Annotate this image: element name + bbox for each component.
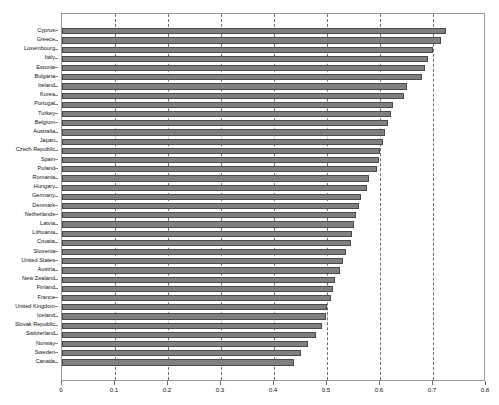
y-axis-tick bbox=[55, 288, 58, 289]
bar bbox=[62, 267, 340, 273]
category-label: Croatia bbox=[37, 237, 55, 246]
category-label: Slovak Republic bbox=[15, 320, 55, 329]
x-axis-tick-label: 0.8 bbox=[481, 386, 490, 393]
category-label: United Kingdom bbox=[15, 302, 55, 311]
bar-row bbox=[62, 146, 484, 155]
y-axis-tick bbox=[55, 49, 58, 50]
bar bbox=[62, 139, 383, 145]
bar bbox=[62, 194, 361, 200]
bar-row bbox=[62, 202, 484, 211]
bar-row bbox=[62, 91, 484, 100]
bar-row bbox=[62, 119, 484, 128]
category-label: Slovenia bbox=[34, 247, 55, 256]
bar-row bbox=[62, 257, 484, 266]
bar-row bbox=[62, 165, 484, 174]
bar bbox=[62, 212, 356, 218]
bar-row bbox=[62, 156, 484, 165]
y-axis-tick bbox=[55, 159, 58, 160]
y-axis-tick bbox=[55, 205, 58, 206]
y-axis-tick bbox=[55, 352, 58, 353]
bar-row bbox=[62, 211, 484, 220]
y-axis-tick bbox=[55, 168, 58, 169]
bar-series bbox=[62, 14, 484, 380]
x-axis-tick-label: 0.5 bbox=[322, 386, 331, 393]
bar bbox=[62, 74, 422, 80]
bar bbox=[62, 102, 393, 108]
bar bbox=[62, 166, 377, 172]
category-label: Australia bbox=[33, 127, 55, 136]
category-label: Turkey bbox=[38, 109, 55, 118]
category-label: Belgium bbox=[35, 118, 55, 127]
x-axis-tick bbox=[379, 381, 380, 385]
category-label: Lithuania bbox=[32, 228, 55, 237]
bar bbox=[62, 56, 428, 62]
y-axis-tick bbox=[55, 362, 58, 363]
x-axis-tick bbox=[167, 381, 168, 385]
bar-row bbox=[62, 100, 484, 109]
y-axis-tick bbox=[55, 113, 58, 114]
bar-chart: CyprusGreeceLuxembourgItalyEstoniaBulgar… bbox=[0, 0, 499, 405]
bar bbox=[62, 157, 379, 163]
category-label: Sweden bbox=[35, 348, 55, 357]
y-axis-tick bbox=[55, 104, 58, 105]
category-label: Netherlands bbox=[25, 210, 55, 219]
bar-row bbox=[62, 349, 484, 358]
bar bbox=[62, 129, 385, 135]
bar-row bbox=[62, 275, 484, 284]
x-axis-tick-label: 0 bbox=[59, 386, 62, 393]
x-axis-tick-label: 0.2 bbox=[163, 386, 172, 393]
x-axis-tick-label: 0.4 bbox=[269, 386, 278, 393]
y-axis-tick bbox=[55, 297, 58, 298]
category-label: Luxembourg bbox=[24, 44, 55, 53]
bar bbox=[62, 231, 352, 237]
y-axis-tick bbox=[55, 122, 58, 123]
bar bbox=[62, 175, 369, 181]
bar bbox=[62, 47, 433, 53]
bar-row bbox=[62, 321, 484, 330]
y-axis-tick bbox=[55, 334, 58, 335]
bar bbox=[62, 258, 343, 264]
y-axis-tick bbox=[55, 224, 58, 225]
category-label: Cyprus bbox=[37, 26, 55, 35]
category-label: Ireland bbox=[38, 81, 55, 90]
bar-row bbox=[62, 229, 484, 238]
y-axis-tick bbox=[55, 233, 58, 234]
bar-row bbox=[62, 36, 484, 45]
category-label: Hungary bbox=[34, 182, 55, 191]
category-axis-labels: CyprusGreeceLuxembourgItalyEstoniaBulgar… bbox=[0, 13, 58, 381]
y-axis-tick bbox=[55, 279, 58, 280]
x-axis-tick-label: 0.6 bbox=[375, 386, 384, 393]
bar bbox=[62, 313, 326, 319]
y-axis-tick bbox=[55, 260, 58, 261]
bar-row bbox=[62, 358, 484, 367]
bar-row bbox=[62, 312, 484, 321]
bar bbox=[62, 341, 308, 347]
x-axis-tick bbox=[326, 381, 327, 385]
y-axis-tick bbox=[55, 58, 58, 59]
bar-row bbox=[62, 110, 484, 119]
bar-row bbox=[62, 294, 484, 303]
bar bbox=[62, 277, 335, 283]
y-axis-tick bbox=[55, 76, 58, 77]
category-label: Bulgaria bbox=[34, 72, 55, 81]
category-label: France bbox=[38, 293, 55, 302]
y-axis-tick bbox=[55, 214, 58, 215]
bar bbox=[62, 323, 322, 329]
x-axis-tick bbox=[114, 381, 115, 385]
bar-row bbox=[62, 248, 484, 257]
x-axis-tick-label: 0.7 bbox=[428, 386, 437, 393]
y-axis-tick bbox=[55, 242, 58, 243]
category-label: Estonia bbox=[36, 63, 55, 72]
y-axis-tick bbox=[55, 86, 58, 87]
bar bbox=[62, 286, 333, 292]
y-axis-tick bbox=[55, 67, 58, 68]
bar-row bbox=[62, 192, 484, 201]
category-label: Czech Republic bbox=[16, 145, 55, 154]
category-label: Romania bbox=[33, 173, 55, 182]
category-label: Norway bbox=[36, 339, 55, 348]
category-label: Korea bbox=[40, 90, 55, 99]
bar bbox=[62, 304, 327, 310]
bar-row bbox=[62, 54, 484, 63]
bar-row bbox=[62, 284, 484, 293]
y-axis-tick bbox=[55, 30, 58, 31]
